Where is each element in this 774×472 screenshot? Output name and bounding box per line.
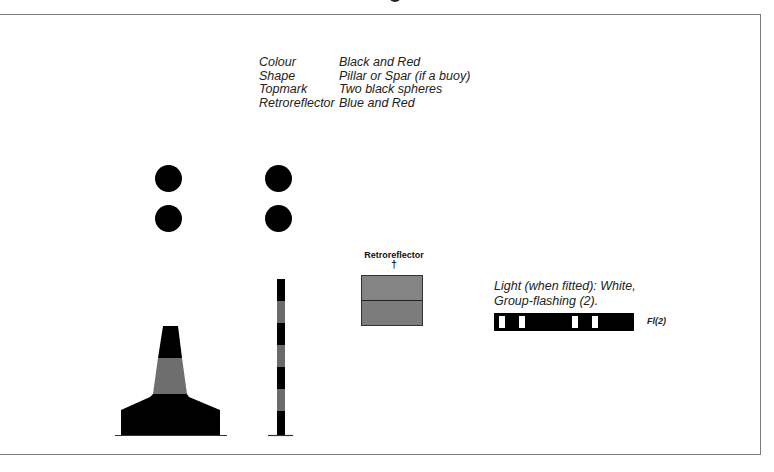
- property-row: Colour Black and Red: [259, 56, 470, 70]
- light-description: Light (when fitted): White, Group-flashi…: [494, 279, 636, 309]
- topmark-sphere-icon: [265, 165, 292, 192]
- property-row: Retroreflector Blue and Red: [259, 97, 470, 111]
- retroreflector-band-blue: [362, 276, 422, 301]
- property-value: Black and Red: [339, 56, 420, 70]
- property-value: Blue and Red: [339, 97, 415, 111]
- title-fragment: [389, 0, 401, 2]
- property-row: Shape Pillar or Spar (if a buoy): [259, 70, 470, 84]
- property-key: Colour: [259, 56, 339, 70]
- property-row: Topmark Two black spheres: [259, 83, 470, 97]
- retroreflector-band-red: [362, 301, 422, 326]
- light-abbreviation: Fl(2): [647, 316, 666, 326]
- pillar-buoy-icon: [110, 320, 240, 440]
- property-value: Two black spheres: [339, 83, 442, 97]
- topmark-sphere-icon: [155, 205, 182, 232]
- flash-mark: [499, 316, 505, 328]
- light-rhythm-bar: [494, 313, 634, 331]
- spar-buoy-icon: [262, 275, 298, 440]
- dagger-marker: †: [362, 259, 426, 270]
- flash-mark: [572, 316, 578, 328]
- retroreflector-swatch: [361, 275, 423, 326]
- flash-mark: [519, 316, 525, 328]
- topmark-sphere-icon: [265, 205, 292, 232]
- properties-table: Colour Black and Red Shape Pillar or Spa…: [259, 56, 470, 110]
- light-line-2: Group-flashing (2).: [494, 294, 636, 309]
- flash-mark: [592, 316, 598, 328]
- property-key: Topmark: [259, 83, 339, 97]
- property-value: Pillar or Spar (if a buoy): [339, 70, 470, 84]
- light-line-1: Light (when fitted): White,: [494, 279, 636, 294]
- property-key: Shape: [259, 70, 339, 84]
- topmark-sphere-icon: [155, 165, 182, 192]
- property-key: Retroreflector: [259, 97, 339, 111]
